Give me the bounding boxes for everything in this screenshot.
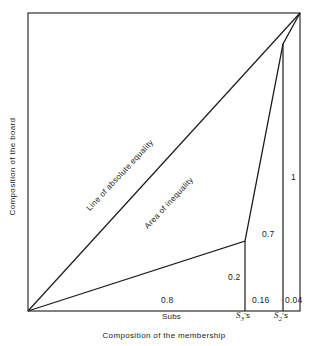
line-of-absolute-equality <box>28 13 300 311</box>
value-label-membership-s2: 0.04 <box>285 295 302 305</box>
value-label-board-cumulative-02: 0.2 <box>228 272 240 282</box>
lorenz-curve-figure: Composition of the board Composition of … <box>0 0 321 346</box>
category-label-s2: S2's <box>274 310 288 322</box>
value-label-membership-s3: 0.16 <box>252 295 269 305</box>
category-label-s2-suffix: 's <box>282 311 288 320</box>
category-label-subs: Subs <box>162 312 181 321</box>
x-axis-title: Composition of the membership <box>28 331 300 340</box>
category-label-s3-suffix: 's <box>244 311 250 320</box>
value-label-membership-subs: 0.8 <box>161 295 173 305</box>
y-axis-title: Composition of the board <box>8 97 17 237</box>
value-label-board-cumulative-1: 1 <box>291 172 296 182</box>
category-label-s3: S3's <box>236 310 250 322</box>
value-label-board-cumulative-07: 0.7 <box>262 229 274 239</box>
